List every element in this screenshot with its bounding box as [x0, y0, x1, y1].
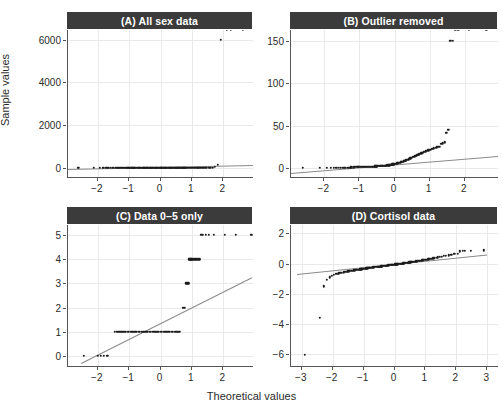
- x-tick: [222, 367, 223, 370]
- gridline-vertical: [302, 225, 303, 366]
- gridline-horizontal: [68, 82, 253, 83]
- y-tick-label: 0: [240, 162, 284, 173]
- gridline-vertical: [430, 30, 431, 177]
- x-tick: [301, 367, 302, 370]
- x-tick-label: −1: [348, 372, 378, 383]
- y-tick-label: 3: [17, 278, 61, 289]
- gridline-horizontal: [291, 83, 498, 84]
- x-tick-label: −2: [82, 183, 112, 194]
- data-point: [470, 249, 472, 251]
- y-axis-title: Sample values: [0, 30, 11, 150]
- gridline-horizontal: [291, 168, 498, 169]
- data-point: [464, 250, 466, 252]
- y-tick: [63, 168, 66, 169]
- x-tick: [160, 178, 161, 181]
- gridline-vertical: [324, 30, 325, 177]
- y-tick-label: 4: [17, 254, 61, 265]
- x-tick-label: 0: [379, 372, 409, 383]
- data-point: [230, 30, 232, 31]
- x-tick-label: 2: [207, 372, 237, 383]
- gridline-vertical: [129, 30, 130, 177]
- y-tick: [63, 356, 66, 357]
- panel-d-plot-area: [290, 225, 498, 367]
- data-point: [241, 30, 243, 31]
- gridline-vertical: [161, 225, 162, 366]
- data-point: [457, 30, 459, 31]
- gridline-vertical: [192, 225, 193, 366]
- gridline-horizontal: [68, 308, 253, 309]
- gridline-vertical: [465, 30, 466, 177]
- gridline-vertical: [129, 225, 130, 366]
- gridline-horizontal: [68, 125, 253, 126]
- y-tick-label: 5: [17, 230, 61, 241]
- y-tick: [286, 83, 289, 84]
- x-tick: [455, 367, 456, 370]
- x-tick: [160, 367, 161, 370]
- y-tick-label: −4: [240, 318, 284, 329]
- panel-b-canvas: [291, 30, 498, 177]
- gridline-vertical: [425, 225, 426, 366]
- y-tick-label: 100: [240, 78, 284, 89]
- x-tick-label: 3: [471, 372, 501, 383]
- data-point: [454, 30, 456, 31]
- y-tick: [286, 324, 289, 325]
- gridline-horizontal: [291, 294, 498, 295]
- data-point: [468, 30, 470, 31]
- x-tick: [332, 367, 333, 370]
- figure-qq-panels: Sample values (A) All sex data (B) Outli…: [0, 0, 503, 412]
- x-tick-label: −1: [113, 183, 143, 194]
- gridline-horizontal: [291, 233, 498, 234]
- y-tick: [63, 283, 66, 284]
- gridline-horizontal: [68, 283, 253, 284]
- x-tick-label: −3: [286, 372, 316, 383]
- y-tick-label: 50: [240, 120, 284, 131]
- gridline-horizontal: [291, 354, 498, 355]
- x-tick-label: −2: [317, 372, 347, 383]
- x-axis-title: Theoretical values: [0, 390, 503, 402]
- data-point: [318, 316, 320, 318]
- x-tick: [222, 178, 223, 181]
- x-tick-label: 1: [176, 183, 206, 194]
- y-axis-title-text: Sample values: [0, 30, 11, 150]
- gridline-horizontal: [291, 126, 498, 127]
- y-tick: [63, 259, 66, 260]
- data-point: [445, 132, 447, 134]
- y-tick: [286, 354, 289, 355]
- x-tick-label: 2: [449, 183, 479, 194]
- gridline-vertical: [395, 225, 396, 366]
- x-tick-label: 2: [207, 183, 237, 194]
- gridline-horizontal: [68, 259, 253, 260]
- x-tick-label: −2: [308, 183, 338, 194]
- data-point: [443, 141, 445, 143]
- x-tick-label: −1: [343, 183, 373, 194]
- gridline-vertical: [456, 225, 457, 366]
- x-tick: [358, 178, 359, 181]
- gridline-vertical: [98, 30, 99, 177]
- panel-c-canvas: [68, 225, 253, 366]
- y-tick: [286, 41, 289, 42]
- y-tick-label: 0: [17, 350, 61, 361]
- y-tick-label: 6000: [17, 34, 61, 45]
- qq-reference-line: [81, 277, 252, 364]
- x-tick: [191, 178, 192, 181]
- x-tick: [429, 178, 430, 181]
- y-tick-label: 1: [17, 326, 61, 337]
- x-tick-label: 0: [145, 183, 175, 194]
- x-tick: [323, 178, 324, 181]
- data-point: [485, 30, 487, 31]
- x-tick: [97, 367, 98, 370]
- x-tick: [394, 178, 395, 181]
- x-tick-label: 0: [145, 372, 175, 383]
- data-point: [326, 279, 328, 281]
- gridline-horizontal: [291, 324, 498, 325]
- y-tick: [63, 82, 66, 83]
- gridline-vertical: [395, 30, 396, 177]
- gridline-vertical: [98, 225, 99, 366]
- x-tick-label: 0: [379, 183, 409, 194]
- y-tick-label: 4000: [17, 77, 61, 88]
- x-tick-label: 1: [176, 372, 206, 383]
- x-tick: [97, 178, 98, 181]
- data-point: [453, 253, 455, 255]
- x-tick: [424, 367, 425, 370]
- gridline-vertical: [161, 30, 162, 177]
